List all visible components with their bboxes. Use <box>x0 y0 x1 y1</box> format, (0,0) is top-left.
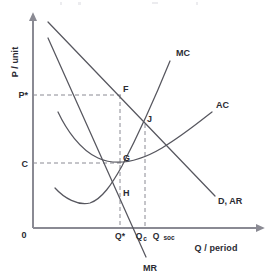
mc-curve-label: MC <box>176 48 190 58</box>
q-c-tick-subscript: c <box>143 235 147 242</box>
point-h-label: H <box>123 188 130 198</box>
economics-diagram: P / unit Q / period 0 P* C Q* Q c Q soc … <box>0 0 273 279</box>
point-f-label: F <box>123 84 129 94</box>
origin-label: 0 <box>21 230 26 240</box>
q-soc-tick-label: Q soc <box>153 231 175 241</box>
chart-surface: P / unit Q / period 0 P* C Q* Q c Q soc … <box>0 0 273 279</box>
average-cost-curve <box>58 112 212 162</box>
cost-label: C <box>22 159 29 169</box>
q-c-tick-base: Q <box>136 231 143 241</box>
q-star-tick-label: Q* <box>115 231 126 241</box>
marginal-cost-curve <box>55 61 170 204</box>
mr-curve-label: MR <box>143 263 157 273</box>
point-g-label: G <box>123 153 130 163</box>
demand-ar-curve-label: D, AR <box>218 196 243 206</box>
point-j-label: J <box>147 114 152 124</box>
q-c-tick-label: Q c <box>136 231 148 242</box>
scan-header-artifact <box>60 2 198 5</box>
price-star-label: P* <box>18 90 28 100</box>
y-axis-title: P / unit <box>10 47 20 78</box>
q-soc-tick-subscript: soc <box>163 234 175 241</box>
x-axis-title: Q / period <box>194 243 237 253</box>
q-soc-tick-base: Q <box>153 231 160 241</box>
ac-curve-label: AC <box>216 100 229 110</box>
